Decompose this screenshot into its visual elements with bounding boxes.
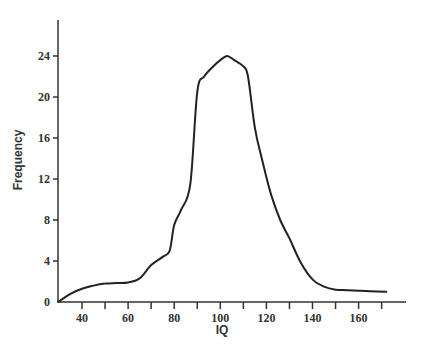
y-tick-label: 16 <box>38 131 50 145</box>
y-tick-label: 20 <box>38 90 50 104</box>
x-axis-title: IQ <box>216 323 229 337</box>
y-tick-label: 0 <box>44 295 50 309</box>
x-tick-label: 80 <box>168 311 180 325</box>
y-tick-label: 4 <box>44 254 50 268</box>
axes <box>58 20 406 302</box>
x-ticks: 406080100120140160 <box>76 302 382 325</box>
x-tick-label: 160 <box>350 311 368 325</box>
y-tick-label: 12 <box>38 172 50 186</box>
y-axis-title: Frequency <box>11 129 25 190</box>
x-tick-label: 120 <box>257 311 275 325</box>
y-ticks: 04812162024 <box>38 49 58 309</box>
iq-frequency-chart: 04812162024 406080100120140160 IQ Freque… <box>0 0 424 360</box>
y-tick-label: 24 <box>38 49 50 63</box>
x-tick-label: 60 <box>122 311 134 325</box>
x-tick-label: 140 <box>304 311 322 325</box>
frequency-curve <box>58 56 386 302</box>
x-tick-label: 40 <box>76 311 88 325</box>
y-tick-label: 8 <box>44 213 50 227</box>
